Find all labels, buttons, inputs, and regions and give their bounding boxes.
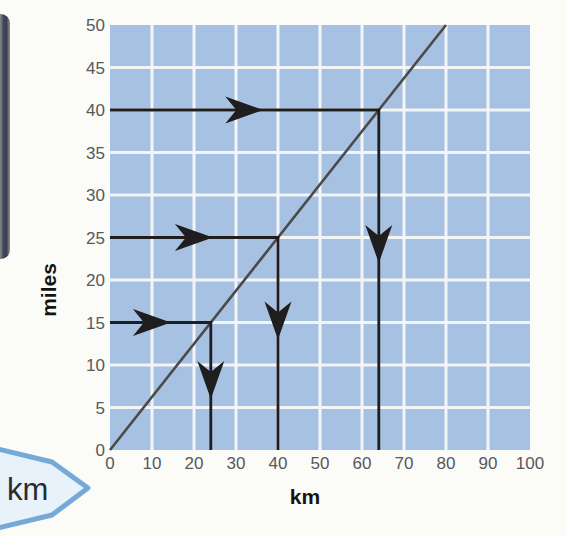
y-tick-label: 35 bbox=[86, 144, 105, 163]
y-tick-label: 10 bbox=[86, 356, 105, 375]
y-tick-label: 40 bbox=[86, 101, 105, 120]
x-tick-label: 0 bbox=[105, 454, 114, 473]
km-banner: km bbox=[0, 443, 100, 535]
y-tick-label: 20 bbox=[86, 271, 105, 290]
x-tick-label: 50 bbox=[311, 454, 330, 473]
x-tick-label: 100 bbox=[516, 454, 544, 473]
x-tick-label: 80 bbox=[437, 454, 456, 473]
x-tick-label: 30 bbox=[227, 454, 246, 473]
x-tick-label: 70 bbox=[395, 454, 414, 473]
km-banner-label: km bbox=[7, 472, 48, 507]
x-axis-label: km bbox=[290, 485, 320, 508]
chart-plot-group: 0102030405060708090100051015202530354045… bbox=[86, 16, 544, 473]
y-tick-label: 50 bbox=[86, 16, 105, 35]
x-tick-label: 60 bbox=[353, 454, 372, 473]
y-tick-label: 5 bbox=[96, 399, 105, 418]
x-tick-label: 10 bbox=[143, 454, 162, 473]
textbook-conversion-graph-page: 0102030405060708090100051015202530354045… bbox=[0, 0, 567, 536]
y-axis-label: miles bbox=[37, 263, 60, 317]
y-tick-label: 15 bbox=[86, 314, 105, 333]
x-tick-label: 40 bbox=[269, 454, 288, 473]
y-tick-label: 25 bbox=[86, 229, 105, 248]
y-tick-label: 30 bbox=[86, 186, 105, 205]
x-tick-label: 90 bbox=[479, 454, 498, 473]
y-tick-label: 45 bbox=[86, 59, 105, 78]
x-tick-label: 20 bbox=[185, 454, 204, 473]
